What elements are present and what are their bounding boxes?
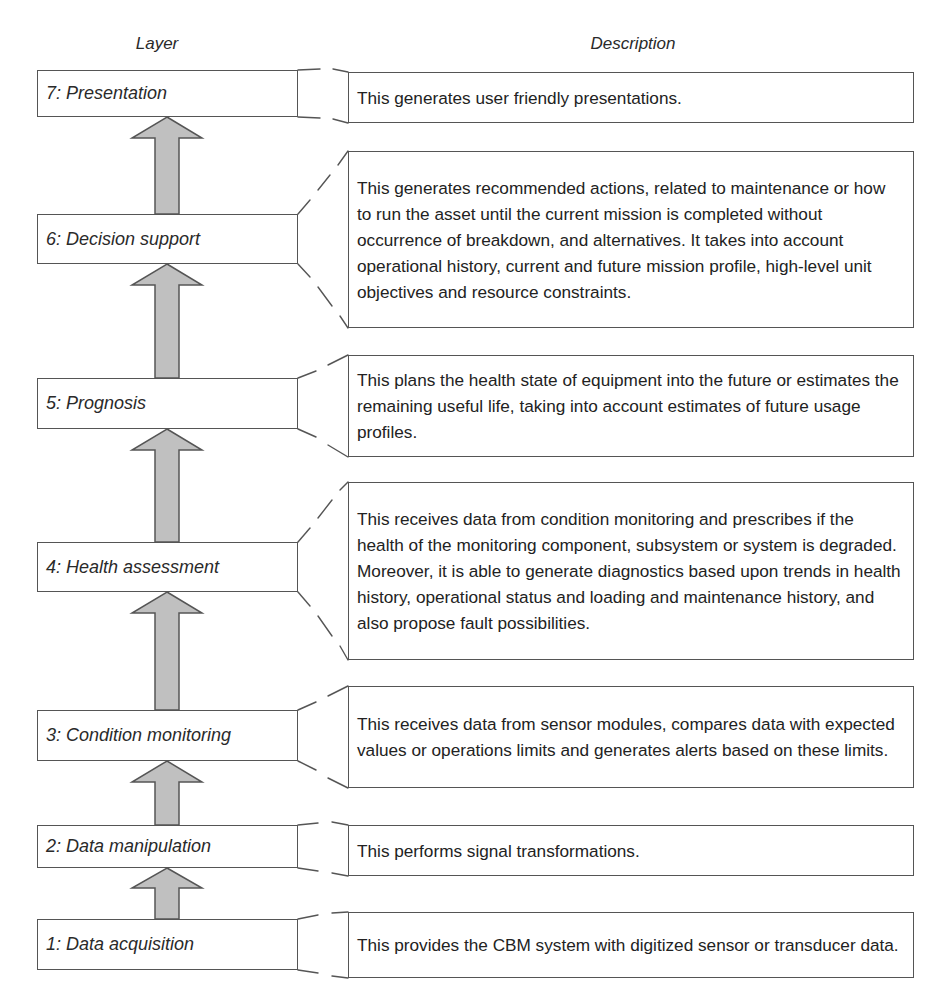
up-arrow-icon (132, 117, 202, 214)
layer-label: 6: Decision support (46, 229, 200, 250)
description-box-prognosis: This plans the health state of equipment… (348, 355, 914, 457)
up-arrow-icon (132, 592, 202, 710)
layer-label: 7: Presentation (46, 83, 167, 104)
description-box-presentation: This generates user friendly presentatio… (348, 72, 914, 123)
up-arrow-icon (132, 761, 202, 825)
layer-box-data-manipulation: 2: Data manipulation (37, 825, 298, 868)
layer-box-presentation: 7: Presentation (37, 70, 298, 117)
layer-box-prognosis: 5: Prognosis (37, 378, 298, 429)
description-text: This generates user friendly presentatio… (357, 85, 682, 111)
layer-box-health-assessment: 4: Health assessment (37, 542, 298, 592)
description-text: This generates recommended actions, rela… (357, 175, 903, 305)
layer-column-header: Layer (136, 34, 179, 54)
up-arrow-icon (132, 868, 202, 919)
description-text: This provides the CBM system with digiti… (357, 932, 899, 958)
layer-box-data-acquisition: 1: Data acquisition (37, 919, 298, 970)
description-text: This receives data from sensor modules, … (357, 711, 903, 763)
layer-label: 3: Condition monitoring (46, 725, 231, 746)
description-text: This plans the health state of equipment… (357, 367, 903, 445)
up-arrow-icon (132, 429, 202, 542)
layer-label: 4: Health assessment (46, 557, 219, 578)
description-box-data-manipulation: This performs signal transformations. (348, 825, 914, 876)
description-text: This receives data from condition monito… (357, 506, 903, 636)
description-box-decision-support: This generates recommended actions, rela… (348, 151, 914, 328)
layer-box-decision-support: 6: Decision support (37, 214, 298, 264)
description-box-health-assessment: This receives data from condition monito… (348, 482, 914, 660)
layer-label: 5: Prognosis (46, 393, 146, 414)
description-box-data-acquisition: This provides the CBM system with digiti… (348, 912, 914, 978)
layer-label: 1: Data acquisition (46, 934, 194, 955)
layer-box-condition-monitoring: 3: Condition monitoring (37, 710, 298, 761)
up-arrow-icon (132, 264, 202, 378)
description-box-condition-monitoring: This receives data from sensor modules, … (348, 686, 914, 788)
description-column-header: Description (590, 34, 675, 54)
description-text: This performs signal transformations. (357, 838, 640, 864)
layer-label: 2: Data manipulation (46, 836, 211, 857)
